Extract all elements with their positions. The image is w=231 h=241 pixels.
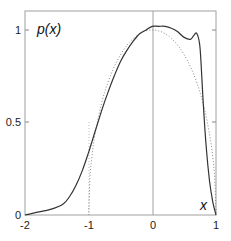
y-axis-title: p(x) [36,21,61,37]
y-tick-label-1: 1 [15,24,21,36]
x-tick-label-0: 0 [150,219,156,231]
y-tick-label-0-5: 0.5 [6,116,21,128]
chart-canvas: 1 0.5 0 -2 -1 0 1 p(x) x [0,0,231,241]
x-axis-title: x [199,197,208,213]
x-tick-label-1: 1 [213,219,219,231]
x-tick-label-minus-1: -1 [84,219,94,231]
plot-frame [25,11,216,215]
x-tick-label-minus-2: -2 [20,219,30,231]
y-axis-ticks [25,30,216,122]
semicircle-dotted-curve [89,30,216,215]
